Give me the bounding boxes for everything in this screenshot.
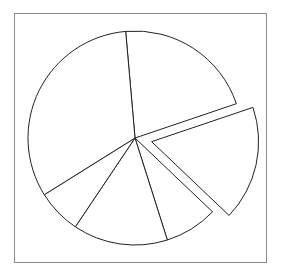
pie-chart bbox=[0, 0, 282, 278]
pie-slices bbox=[28, 31, 259, 245]
